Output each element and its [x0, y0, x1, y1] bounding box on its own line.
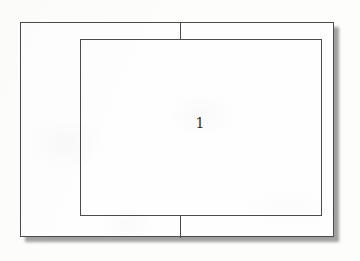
bottom-connector-tick-line	[180, 215, 181, 238]
figure-canvas: 1	[0, 0, 360, 261]
region-1-label: 1	[192, 113, 208, 133]
top-connector-tick-line	[180, 22, 181, 40]
